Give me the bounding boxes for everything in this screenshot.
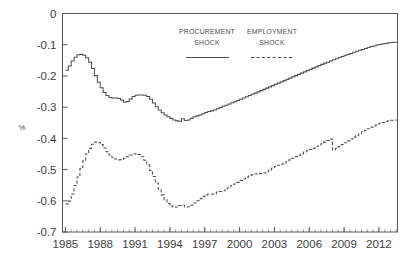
x-tick-label: 2000	[227, 238, 253, 250]
x-tick-label: 2012	[366, 238, 392, 250]
legend-entry-1-line2: SHOCK	[259, 39, 285, 46]
legend-entry-0-line1: PROCUREMENT	[179, 28, 235, 35]
y-tick-label: 0	[50, 8, 56, 20]
y-tick-label: -0.5	[37, 164, 57, 176]
legend-entry-1-line1: EMPLOYMENT	[247, 28, 297, 35]
x-tick-label: 1997	[192, 238, 218, 250]
legend-entry-0-line2: SHOCK	[194, 39, 220, 46]
x-tick-label: 1991	[122, 238, 148, 250]
y-tick-label: -0.1	[37, 39, 57, 51]
chart-canvas: 0-0.1-0.2-0.3-0.4-0.5-0.6-0.7 1985198819…	[0, 0, 415, 262]
y-tick-label: -0.2	[37, 70, 57, 82]
x-tick-label: 1985	[53, 238, 79, 250]
y-tick-label: -0.6	[37, 195, 57, 207]
x-tick-label: 1994	[157, 238, 183, 250]
y-axis-title: %	[18, 123, 25, 132]
y-tick-label: -0.4	[37, 133, 57, 145]
y-tick-label: -0.3	[37, 101, 57, 113]
y-tick-label: -0.7	[37, 226, 57, 238]
x-tick-label: 2006	[296, 238, 322, 250]
chart-figure: 0-0.1-0.2-0.3-0.4-0.5-0.6-0.7 1985198819…	[0, 0, 415, 262]
x-tick-label: 2009	[331, 238, 357, 250]
x-tick-label: 1988	[87, 238, 113, 250]
x-tick-label: 2003	[262, 238, 288, 250]
